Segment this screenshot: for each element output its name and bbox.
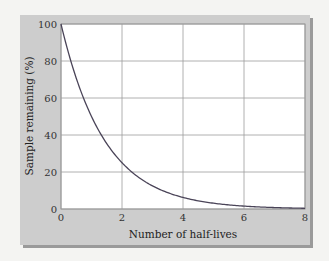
x-tick-label: 6 (241, 212, 247, 223)
x-tick-label: 2 (119, 212, 125, 223)
x-tick-label: 4 (180, 212, 186, 223)
y-tick-label: 80 (44, 56, 57, 67)
x-tick-label: 0 (58, 212, 64, 223)
x-axis-ticks: 02468 (58, 212, 308, 223)
y-axis-ticks: 020406080100 (38, 19, 57, 215)
decay-chart: 020406080100 02468 Number of half-lives … (0, 0, 329, 261)
y-tick-label: 60 (44, 93, 57, 104)
y-axis-label: Sample remaining (%) (23, 57, 35, 176)
x-axis-label: Number of half-lives (129, 228, 237, 240)
y-tick-label: 40 (44, 130, 57, 141)
y-tick-label: 0 (51, 204, 57, 215)
x-tick-label: 8 (302, 212, 308, 223)
y-tick-label: 20 (44, 167, 57, 178)
y-tick-label: 100 (38, 19, 57, 30)
